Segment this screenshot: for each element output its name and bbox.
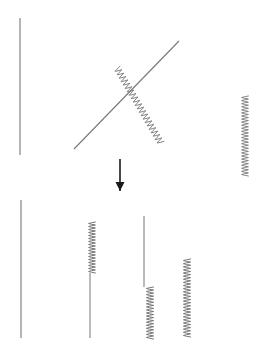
figure-canvas: [0, 0, 262, 359]
figure-svg: [0, 0, 262, 359]
figure-background: [0, 0, 262, 359]
